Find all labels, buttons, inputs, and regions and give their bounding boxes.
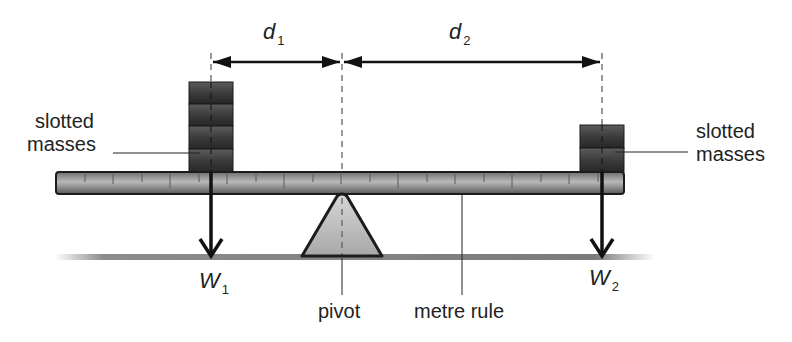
label-w2: W2 — [589, 265, 619, 294]
label-d1: d1 — [263, 19, 284, 48]
left-slotted-masses — [189, 82, 233, 172]
label-d2: d2 — [449, 19, 470, 48]
moments-diagram — [0, 0, 792, 342]
metre-rule — [56, 172, 624, 194]
label-right-slotted-masses: slotted masses — [696, 120, 765, 166]
dashed-reference-lines — [211, 53, 602, 255]
label-left-slotted-masses: slotted masses — [35, 110, 96, 156]
label-w1: W1 — [199, 268, 229, 297]
pivot-triangle — [302, 194, 382, 256]
label-metre-rule: metre rule — [414, 300, 504, 323]
right-slotted-masses — [580, 125, 624, 172]
label-pivot: pivot — [318, 300, 360, 323]
